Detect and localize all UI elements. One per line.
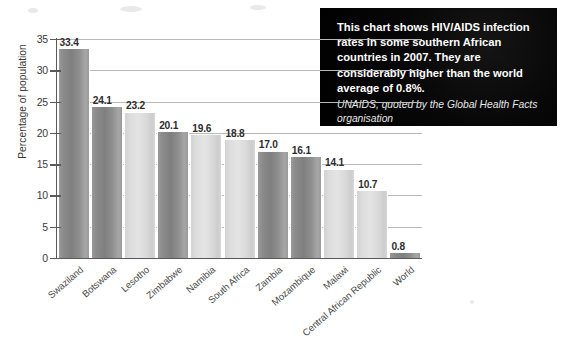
x-axis-category-label: World xyxy=(391,264,417,288)
x-axis-category-label: Swaziland xyxy=(45,264,85,300)
bar: 24.1 xyxy=(91,107,123,258)
y-axis-tick-label: 15 xyxy=(20,158,48,170)
y-axis-tick-mark xyxy=(50,258,61,259)
scan-speck xyxy=(28,8,38,13)
y-axis-tick-label: 20 xyxy=(20,127,48,139)
bar-value-label: 10.7 xyxy=(358,179,377,190)
bar-value-label: 18.8 xyxy=(226,128,245,139)
bar-value-label: 17.0 xyxy=(259,139,278,150)
bar-value-label: 23.2 xyxy=(126,100,145,111)
y-axis-tick-label: 0 xyxy=(20,252,48,264)
y-axis-tick-labels: 05101520253035 xyxy=(10,0,48,356)
bar: 19.6 xyxy=(190,135,222,258)
y-axis-tick-label: 25 xyxy=(20,96,48,108)
chart-page: This chart shows HIV/AIDS infection rate… xyxy=(0,0,579,356)
y-axis-tick-mark xyxy=(50,195,61,196)
x-axis-category-label: Botswana xyxy=(80,264,118,299)
bar: 23.2 xyxy=(124,113,156,258)
bar-value-label: 24.1 xyxy=(93,95,112,106)
y-axis-tick-mark xyxy=(50,70,61,71)
y-axis-tick-mark xyxy=(50,39,61,40)
x-axis-category-label: Zimbabwe xyxy=(144,264,184,301)
bar-value-label: 14.1 xyxy=(325,157,344,168)
bar: 0.8 xyxy=(389,253,421,258)
scan-speck xyxy=(470,300,474,304)
scan-speck xyxy=(250,5,266,10)
bar: 20.1 xyxy=(157,132,189,258)
scan-speck xyxy=(120,6,142,12)
bar-series: 33.424.123.220.119.618.817.016.114.110.7… xyxy=(57,0,427,258)
bar-value-label: 20.1 xyxy=(159,120,178,131)
y-axis-tick-mark xyxy=(50,164,61,165)
bar: 10.7 xyxy=(356,191,388,258)
bar-value-label: 16.1 xyxy=(292,145,311,156)
y-axis-tick-label: 35 xyxy=(20,33,48,45)
x-axis-category-labels: SwazilandBotswanaLesothoZimbabweNamibiaS… xyxy=(57,260,427,356)
bar-value-label: 33.4 xyxy=(60,37,79,48)
x-axis-category-label: Malawi xyxy=(321,264,350,292)
bar: 33.4 xyxy=(58,49,90,258)
y-axis-tick-mark xyxy=(50,133,61,134)
bar: 14.1 xyxy=(323,170,355,258)
x-axis-category-label: Zambia xyxy=(253,264,284,293)
y-axis-tick-mark xyxy=(50,227,61,228)
bar-value-label: 0.8 xyxy=(391,241,405,252)
y-axis-tick-label: 5 xyxy=(20,221,48,233)
bar: 16.1 xyxy=(290,157,322,258)
y-axis-tick-label: 30 xyxy=(20,64,48,76)
y-axis-tick-label: 10 xyxy=(20,189,48,201)
bar: 17.0 xyxy=(257,152,289,258)
bar: 18.8 xyxy=(224,140,256,258)
bar-value-label: 19.6 xyxy=(192,123,211,134)
y-axis-tick-mark xyxy=(50,102,61,103)
